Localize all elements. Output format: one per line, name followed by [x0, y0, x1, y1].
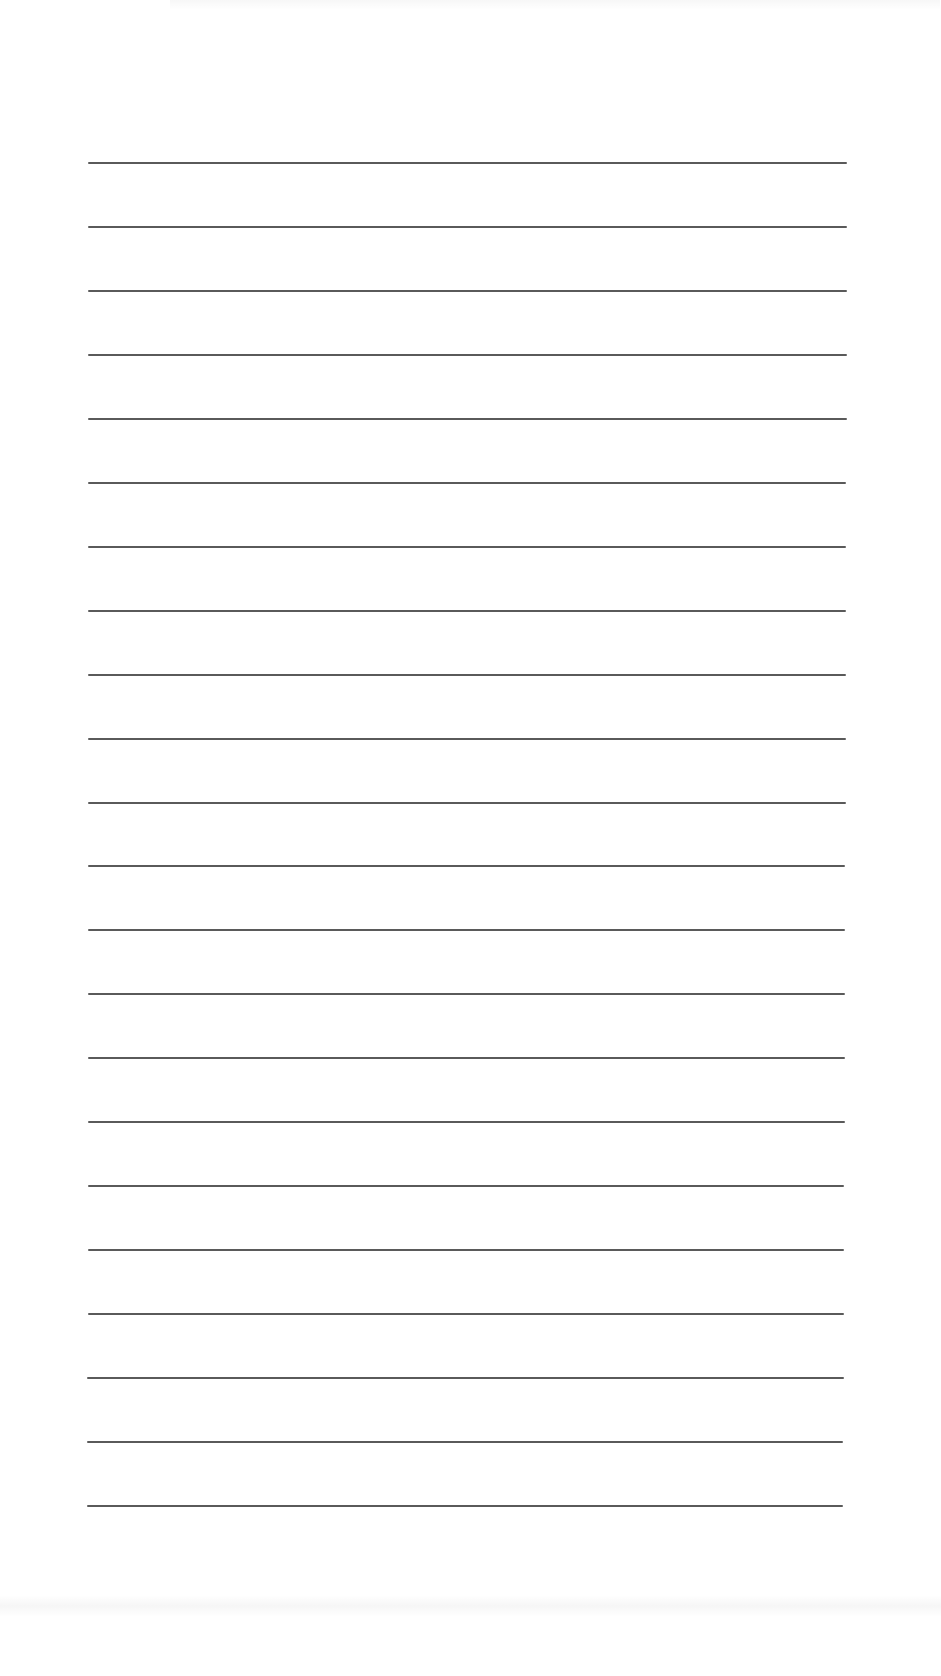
bleed-through-bottom — [0, 1595, 941, 1617]
ruled-line — [87, 1505, 843, 1507]
ruled-line — [88, 674, 846, 676]
ruled-line — [88, 1249, 844, 1251]
lined-paper-page — [0, 0, 941, 1676]
ruled-line — [88, 226, 847, 228]
ruled-line — [87, 1441, 843, 1443]
ruled-line — [87, 1377, 844, 1379]
ruled-line — [88, 162, 847, 164]
ruled-line — [88, 1313, 844, 1315]
ruled-line — [88, 738, 846, 740]
bleed-through-top — [170, 0, 940, 10]
ruled-line — [88, 865, 845, 867]
ruled-line — [88, 993, 845, 995]
ruled-line — [88, 354, 847, 356]
ruled-line — [88, 290, 847, 292]
ruled-line — [88, 546, 846, 548]
ruled-line — [88, 418, 847, 420]
ruled-line — [88, 1121, 845, 1123]
ruled-line — [88, 802, 846, 804]
ruled-line — [88, 610, 846, 612]
ruled-line — [88, 929, 845, 931]
ruled-line — [88, 1185, 844, 1187]
ruled-line — [88, 482, 846, 484]
ruled-line — [88, 1057, 845, 1059]
